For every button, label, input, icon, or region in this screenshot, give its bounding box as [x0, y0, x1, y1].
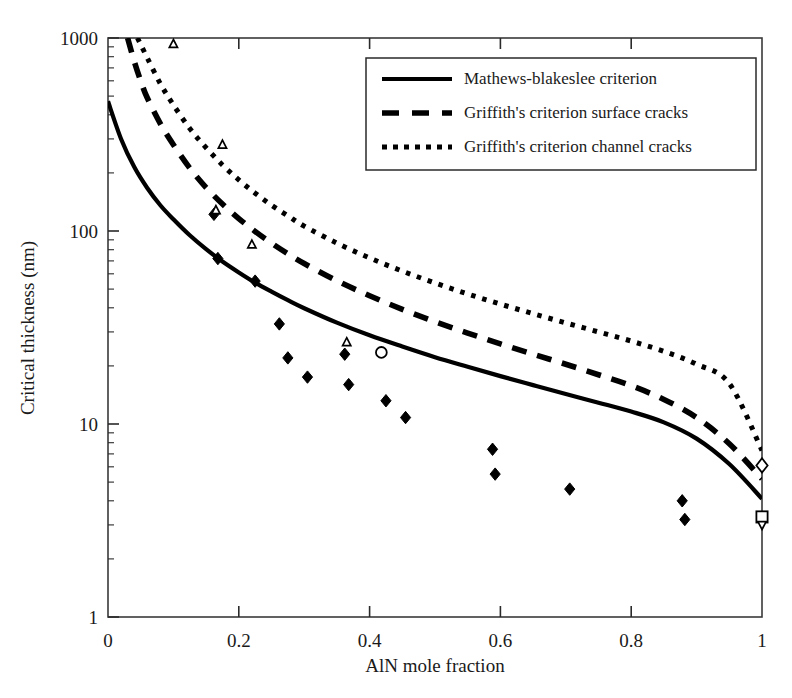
x-axis-title: AlN mole fraction: [365, 655, 505, 676]
x-tick-label: 0.8: [619, 630, 643, 651]
critical-thickness-plot: 1101001000 00.20.40.60.81 AlN mole fract…: [0, 0, 792, 698]
open-circle-marker: [376, 347, 387, 358]
x-tick-label: 0.6: [489, 630, 513, 651]
legend-label-1: Griffith's criterion surface cracks: [464, 103, 688, 122]
y-tick-label: 1: [89, 607, 99, 628]
y-axis-title: Critical thickness (nm): [17, 241, 39, 415]
chart-figure: 1101001000 00.20.40.60.81 AlN mole fract…: [0, 0, 792, 698]
legend-label-2: Griffith's criterion channel cracks: [464, 137, 692, 156]
chart-legend: Mathews-blakeslee criterionGriffith's cr…: [366, 58, 756, 170]
x-tick-label: 0.4: [358, 630, 382, 651]
y-tick-label: 100: [70, 221, 99, 242]
x-tick-label: 0.2: [227, 630, 251, 651]
y-tick-label: 10: [79, 414, 98, 435]
y-tick-label: 1000: [60, 28, 98, 49]
x-tick-label: 0: [103, 630, 113, 651]
legend-label-0: Mathews-blakeslee criterion: [464, 69, 658, 88]
x-tick-label: 1: [757, 630, 767, 651]
